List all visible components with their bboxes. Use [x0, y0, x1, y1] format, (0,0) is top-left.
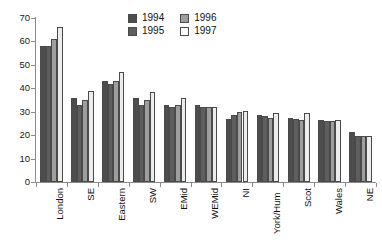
x-tick-mark: [67, 183, 68, 187]
chart-legend: 1994199619951997: [128, 13, 217, 36]
bar: [119, 72, 125, 182]
legend-entry: 1996: [180, 13, 216, 23]
plot-area: [36, 18, 376, 182]
x-tick-mark: [129, 183, 130, 187]
bar: [57, 27, 63, 182]
bar: [150, 92, 156, 182]
legend-swatch-icon: [180, 14, 189, 23]
bar-chart: 706050403020100 LondonSEEasternSWEMidWEM…: [0, 0, 382, 241]
legend-label: 1996: [194, 13, 216, 23]
x-category-label: London: [55, 188, 65, 220]
x-axis-line: [35, 182, 376, 183]
x-category-label: EMid: [179, 188, 189, 210]
bar-group: [288, 18, 310, 182]
x-tick-mark: [160, 183, 161, 187]
x-category-label: Scot: [303, 188, 313, 207]
bar-group: [40, 18, 62, 182]
y-tick-mark: [31, 18, 35, 19]
bar-group: [102, 18, 124, 182]
y-tick-label: 30: [19, 107, 30, 117]
x-category-label: WEMid: [210, 188, 220, 219]
x-tick-mark: [345, 183, 346, 187]
x-tick-mark: [191, 183, 192, 187]
y-tick-mark: [31, 88, 35, 89]
x-category-label: NI: [241, 188, 251, 198]
y-tick-mark: [31, 112, 35, 113]
bar-group: [349, 18, 371, 182]
y-tick-label: 60: [19, 36, 30, 46]
legend-label: 1994: [142, 13, 164, 23]
bar: [243, 111, 249, 182]
bar: [273, 113, 279, 182]
x-tick-mark: [283, 183, 284, 187]
bar: [181, 98, 187, 182]
legend-swatch-icon: [128, 27, 137, 36]
bar-group: [318, 18, 340, 182]
bar: [212, 107, 218, 182]
legend-swatch-icon: [180, 27, 189, 36]
x-tick-mark: [98, 183, 99, 187]
legend-entry: 1994: [128, 13, 164, 23]
y-tick-label: 0: [25, 177, 30, 187]
legend-swatch-icon: [128, 14, 137, 23]
x-category-label: NE: [365, 188, 375, 201]
x-category-label: Eastern: [117, 188, 127, 221]
legend-label: 1995: [142, 26, 164, 36]
bar: [88, 91, 94, 182]
legend-entry: 1997: [180, 26, 216, 36]
x-category-label: Wales: [334, 188, 344, 214]
legend-label: 1997: [194, 26, 216, 36]
bar: [304, 113, 310, 182]
y-tick-mark: [31, 41, 35, 42]
bar: [366, 136, 372, 182]
x-tick-mark: [314, 183, 315, 187]
bar-group: [226, 18, 248, 182]
y-tick-mark: [31, 159, 35, 160]
y-tick-mark: [31, 135, 35, 136]
y-tick-label: 40: [19, 83, 30, 93]
y-tick-mark: [31, 182, 35, 183]
y-tick-label: 10: [19, 154, 30, 164]
bar-group: [195, 18, 217, 182]
y-tick-label: 70: [19, 13, 30, 23]
bar-group: [164, 18, 186, 182]
y-tick-label: 20: [19, 130, 30, 140]
x-tick-mark: [36, 183, 37, 187]
x-tick-mark: [221, 183, 222, 187]
bar-group: [133, 18, 155, 182]
legend-entry: 1995: [128, 26, 164, 36]
x-tick-mark: [252, 183, 253, 187]
y-tick-mark: [31, 65, 35, 66]
y-tick-label: 50: [19, 60, 30, 70]
bar-group: [257, 18, 279, 182]
x-category-label: SE: [86, 188, 96, 201]
x-category-label: SW: [148, 188, 158, 203]
bar-group: [71, 18, 93, 182]
bar: [335, 120, 341, 182]
x-tick-mark: [376, 183, 377, 187]
x-category-label: York/Hum: [272, 188, 282, 234]
